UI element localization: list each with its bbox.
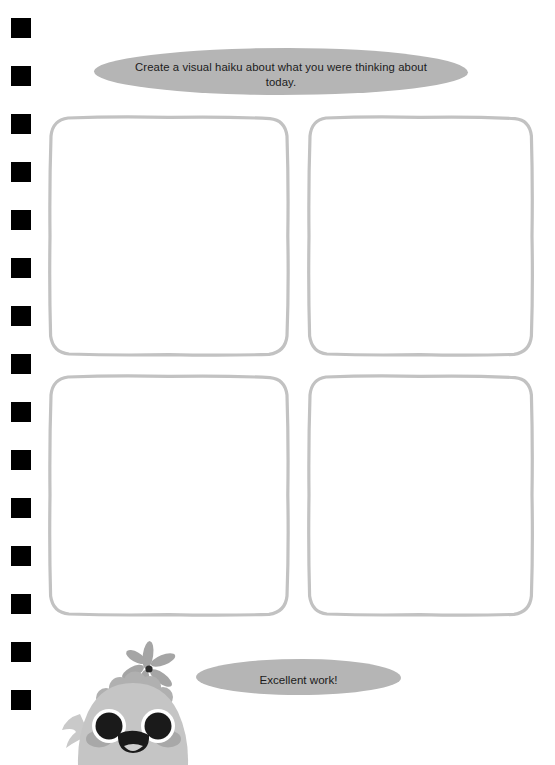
binder-hole — [11, 210, 31, 230]
binder-hole — [11, 498, 31, 518]
mascot-character — [58, 626, 208, 765]
binder-hole — [11, 690, 31, 710]
binder-hole — [11, 402, 31, 422]
prompt-bubble: Create a visual haiku about what you wer… — [94, 48, 468, 95]
binder-hole-strip — [0, 0, 42, 765]
praise-bubble-text: Excellent work! — [260, 673, 338, 686]
worksheet-page: Create a visual haiku about what you wer… — [0, 0, 555, 765]
drawing-panel-1[interactable] — [47, 114, 291, 358]
drawing-panel-2[interactable] — [306, 114, 535, 358]
binder-hole — [11, 546, 31, 566]
drawing-grid — [47, 114, 535, 618]
binder-hole — [11, 594, 31, 614]
binder-hole — [11, 642, 31, 662]
flower-center-icon — [145, 665, 152, 672]
binder-hole — [11, 450, 31, 470]
prompt-bubble-text: Create a visual haiku about what you wer… — [94, 60, 468, 88]
praise-bubble: Excellent work! — [196, 659, 401, 695]
binder-hole — [11, 66, 31, 86]
binder-hole — [11, 354, 31, 374]
binder-hole — [11, 162, 31, 182]
binder-hole — [11, 114, 31, 134]
binder-hole — [11, 306, 31, 326]
drawing-panel-4[interactable] — [306, 373, 535, 618]
binder-hole — [11, 258, 31, 278]
binder-hole — [11, 18, 31, 38]
drawing-panel-3[interactable] — [47, 373, 291, 618]
